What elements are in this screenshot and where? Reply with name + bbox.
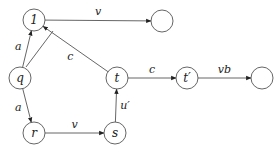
edge-t-n1 — [43, 26, 108, 71]
edge-label: a — [15, 101, 22, 114]
edge-label: v — [71, 118, 78, 131]
edge-s-t — [115, 89, 116, 122]
edge-label: a — [15, 40, 22, 53]
node-label: q — [16, 71, 24, 85]
node-s: s — [104, 122, 126, 144]
edge-label: vb — [218, 63, 231, 76]
edge-q-r — [23, 89, 32, 123]
node-label: s — [112, 126, 118, 140]
graph-diagram: aavu′cvcvb 1qtt′rs — [0, 0, 280, 157]
edge-label: c — [149, 63, 155, 76]
node-q: q — [9, 67, 31, 89]
node-r: r — [23, 122, 45, 144]
node-label: 1 — [30, 13, 38, 27]
edge-label: v — [95, 5, 102, 18]
node-tp: t′ — [176, 67, 198, 89]
node-label: t — [115, 71, 120, 85]
edge-label: u′ — [120, 99, 130, 112]
node-right_end — [251, 67, 273, 89]
edge-n1-top_end — [45, 20, 151, 21]
edge-label: c — [67, 50, 73, 63]
node-top_end — [151, 10, 173, 32]
node-t: t — [106, 67, 128, 89]
node-label: t′ — [183, 71, 191, 85]
node-n1: 1 — [23, 9, 45, 31]
